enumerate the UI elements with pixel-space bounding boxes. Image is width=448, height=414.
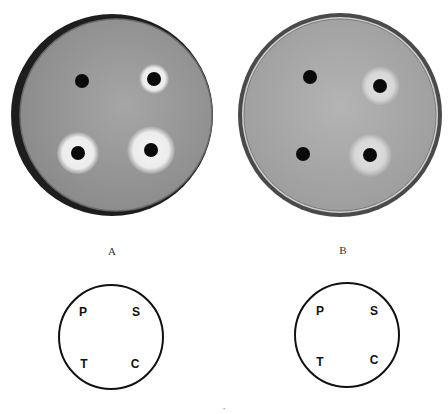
key-a-letter-s: S: [132, 305, 140, 319]
well-s-b: [360, 66, 400, 106]
key-b-letter-s: S: [370, 304, 378, 318]
petri-dish-b: [238, 13, 442, 217]
well-c-b: [348, 133, 392, 177]
petri-dish-a: [11, 14, 213, 216]
key-a-letter-t: T: [80, 357, 87, 371]
key-a-letter-c: C: [131, 357, 140, 371]
panel-label-a: A: [108, 245, 116, 257]
well-p-b: [303, 70, 317, 84]
panel-label-b: B: [339, 244, 346, 256]
well-p-a: [75, 74, 89, 88]
key-circle-a: [59, 285, 163, 389]
key-b-letter-t: T: [316, 355, 323, 369]
well-t-a: [57, 132, 99, 174]
key-circle-b: [295, 283, 399, 387]
well-t-b: [296, 147, 310, 161]
key-a-letter-p: P: [79, 305, 87, 319]
key-b-letter-c: C: [370, 353, 379, 367]
key-b-letter-p: P: [316, 304, 324, 318]
well-s-a: [139, 64, 169, 94]
caption-fragment: ·: [222, 402, 226, 414]
well-c-a: [127, 126, 175, 174]
